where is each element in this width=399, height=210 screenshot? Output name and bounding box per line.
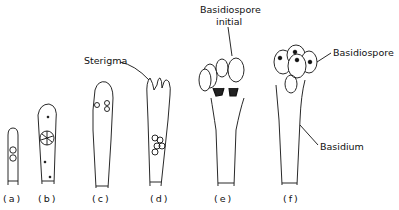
stage-c-basidium <box>93 82 113 188</box>
stage-b-basidium <box>38 104 56 184</box>
stage-label-e: (e) <box>214 194 233 204</box>
basidium-label: Basidium <box>320 142 364 152</box>
stage-label-c: (c) <box>92 194 111 204</box>
stage-label-b: (b) <box>38 194 57 204</box>
sterigma-label: Sterigma <box>84 56 127 66</box>
stage-label-a: (a) <box>3 194 22 204</box>
basidiospore-initial-label-line1: Basidiospore <box>200 5 261 15</box>
basidiospore-initial-label-line2: initial <box>216 17 242 27</box>
stage-f-basidium <box>274 45 317 185</box>
stage-d-basidium <box>147 78 171 186</box>
basidiospore-initial-leader <box>228 27 232 56</box>
basidium-diagram <box>0 0 399 210</box>
stage-a-basidium <box>8 128 18 185</box>
basidiospore-leader <box>317 53 331 62</box>
stage-label-f: (f) <box>283 194 300 204</box>
stage-e-basidium <box>199 58 244 186</box>
basidium-leader <box>300 125 318 145</box>
basidiospore-label: Basidiospore <box>333 48 394 58</box>
stage-label-d: (d) <box>150 194 169 204</box>
